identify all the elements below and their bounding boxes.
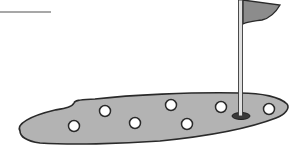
golf-ball	[264, 104, 275, 115]
golf-ball	[166, 100, 177, 111]
golf-ball	[69, 121, 80, 132]
golf-ball	[182, 119, 193, 130]
golf-ball	[130, 118, 141, 129]
golf-ball	[100, 106, 111, 117]
flag-icon	[243, 0, 280, 24]
golf-green-illustration	[0, 0, 292, 154]
golf-ball	[216, 102, 227, 113]
flag-pole	[239, 0, 243, 116]
